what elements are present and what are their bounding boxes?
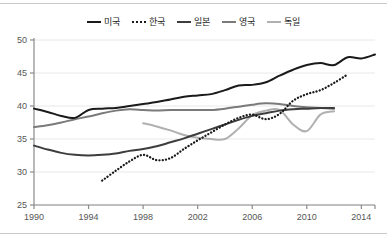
x-tick-label-2006: 2006 — [242, 212, 262, 222]
x-tick-label-2010: 2010 — [297, 212, 317, 222]
legend-swatch-icon — [222, 21, 236, 23]
legend-swatch-icon — [87, 21, 101, 23]
x-tick-label-1998: 1998 — [133, 212, 153, 222]
chart-figure: 미국한국일본영국독일 25303540455019901994199820022… — [0, 0, 387, 246]
y-tick-label-40: 40 — [17, 101, 27, 111]
y-tick-label-45: 45 — [17, 68, 27, 78]
x-tick-label-2002: 2002 — [188, 212, 208, 222]
legend-entry-한국[interactable]: 한국 — [132, 18, 165, 27]
x-tick-label-1994: 1994 — [79, 212, 99, 222]
x-tick-label-1990: 1990 — [24, 212, 44, 222]
legend-entry-미국[interactable]: 미국 — [87, 18, 120, 27]
legend-label: 미국 — [104, 18, 120, 27]
chart-legend: 미국한국일본영국독일 — [0, 14, 387, 30]
y-tick-label-30: 30 — [17, 167, 27, 177]
legend-label: 일본 — [194, 18, 210, 27]
legend-label: 영국 — [239, 18, 255, 27]
legend-entry-영국[interactable]: 영국 — [222, 18, 255, 27]
legend-label: 독일 — [284, 18, 300, 27]
legend-entry-일본[interactable]: 일본 — [177, 18, 210, 27]
legend-label: 한국 — [149, 18, 165, 27]
figure-bottom-border — [0, 233, 387, 234]
x-tick-label-2014: 2014 — [351, 212, 371, 222]
legend-swatch-icon — [132, 21, 146, 23]
legend-entry-독일[interactable]: 독일 — [267, 18, 300, 27]
y-tick-label-35: 35 — [17, 134, 27, 144]
plot-svg: 2530354045501990199419982002200620102014 — [0, 30, 387, 230]
plot-area: 2530354045501990199419982002200620102014 — [0, 30, 387, 230]
legend-swatch-icon — [177, 21, 191, 23]
legend-swatch-icon — [267, 21, 281, 23]
y-tick-label-25: 25 — [17, 200, 27, 210]
figure-top-border — [0, 3, 387, 4]
series-line-germany — [143, 109, 334, 140]
y-tick-label-50: 50 — [17, 35, 27, 45]
